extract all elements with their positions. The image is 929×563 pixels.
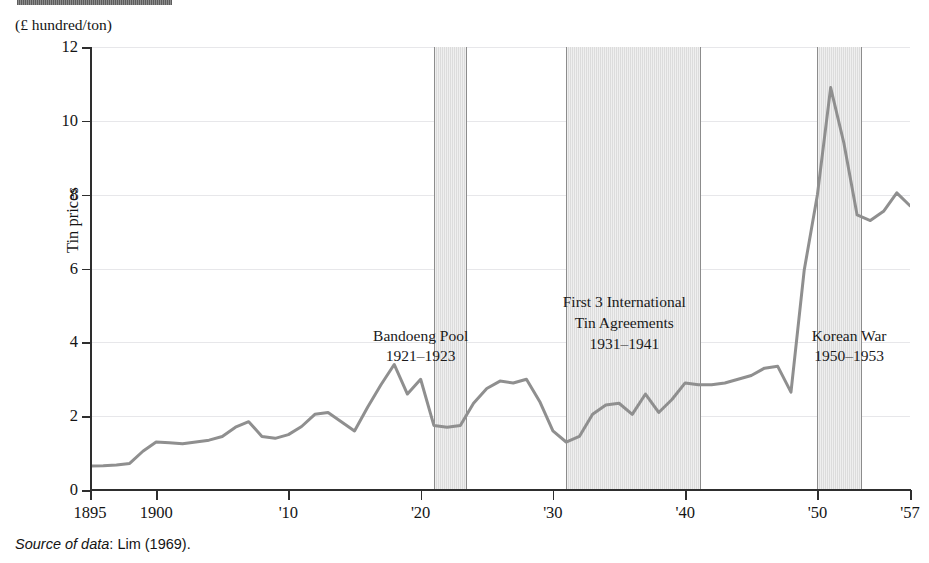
- annotation-line: Bandoeng Pool: [373, 326, 468, 347]
- x-tick-mark: [156, 490, 158, 500]
- source-note: Source of data: Lim (1969).: [15, 536, 191, 552]
- y-tick-mark: [82, 416, 91, 418]
- annotation-line: First 3 International: [563, 292, 686, 313]
- top-rule-divider: [17, 0, 172, 5]
- y-tick-mark: [82, 195, 91, 197]
- x-tick-mark: [288, 490, 290, 500]
- x-tick-mark: [553, 490, 555, 500]
- annotation-line: 1931–1941: [563, 334, 686, 355]
- y-tick-mark: [82, 121, 91, 123]
- y-tick-label: 6: [38, 259, 78, 279]
- x-tick-label: '50: [808, 503, 827, 523]
- annotation-line: Korean War: [812, 326, 887, 347]
- x-tick-label: '57: [900, 503, 919, 523]
- x-axis-line: [90, 489, 911, 491]
- y-tick-label: 2: [38, 406, 78, 426]
- source-note-rest: : Lim (1969).: [109, 536, 190, 552]
- annotation-tin-agreements: First 3 InternationalTin Agreements1931–…: [563, 292, 686, 354]
- x-tick-label: 1895: [74, 503, 107, 523]
- x-tick-mark: [421, 490, 423, 500]
- x-tick-mark: [685, 490, 687, 500]
- x-tick-label: '30: [543, 503, 562, 523]
- y-tick-label: 0: [38, 480, 78, 500]
- y-tick-mark: [82, 47, 91, 49]
- annotation-bandoeng-pool: Bandoeng Pool1921–1923: [373, 326, 468, 367]
- x-tick-mark: [910, 490, 912, 500]
- annotation-line: Tin Agreements: [563, 313, 686, 334]
- y-tick-label: 10: [38, 111, 78, 131]
- annotation-line: 1950–1953: [812, 346, 887, 367]
- x-tick-label: '20: [411, 503, 430, 523]
- y-tick-label: 8: [38, 185, 78, 205]
- x-tick-mark: [90, 490, 92, 500]
- x-tick-label: 1900: [140, 503, 173, 523]
- unit-label: (£ hundred/ton): [15, 16, 112, 34]
- x-tick-label: '40: [675, 503, 694, 523]
- annotation-line: 1921–1923: [373, 346, 468, 367]
- y-tick-label: 4: [38, 332, 78, 352]
- x-tick-label: '10: [279, 503, 298, 523]
- tin-price-line: [90, 47, 910, 490]
- source-note-emphasis: Source of data: [15, 536, 109, 552]
- annotation-korean-war: Korean War1950–1953: [812, 326, 887, 367]
- y-tick-mark: [82, 269, 91, 271]
- plot-surface: [90, 47, 910, 490]
- y-tick-label: 12: [38, 37, 78, 57]
- plot-area: Bandoeng Pool1921–1923First 3 Internatio…: [90, 47, 910, 490]
- x-tick-mark: [817, 490, 819, 500]
- y-tick-mark: [82, 342, 91, 344]
